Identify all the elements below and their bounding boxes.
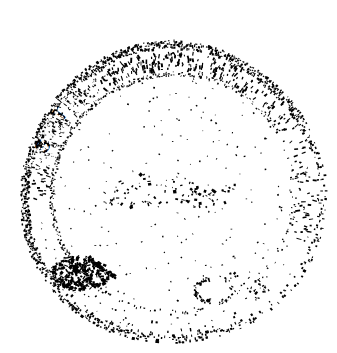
seal-vector-surface: Faint black-and-white scan of a circular… (0, 0, 337, 353)
background-rect (0, 0, 337, 353)
seal-image-canvas: Faint black-and-white scan of a circular… (0, 0, 337, 353)
